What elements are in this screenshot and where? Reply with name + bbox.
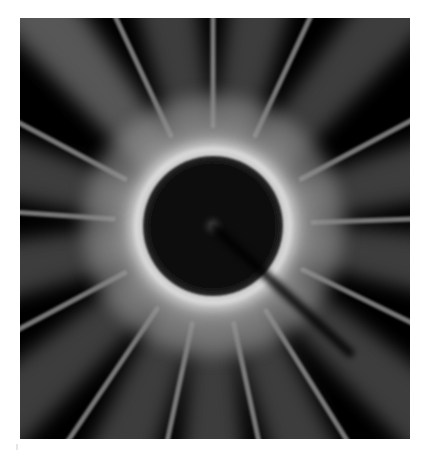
diffraction-pattern bbox=[20, 18, 410, 439]
diffraction-image bbox=[20, 18, 410, 439]
edge-mark bbox=[16, 444, 18, 450]
page-canvas bbox=[0, 0, 430, 462]
